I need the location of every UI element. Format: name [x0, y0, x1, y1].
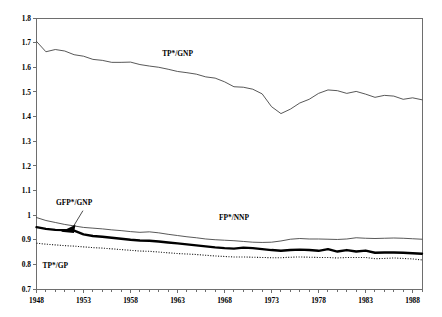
y-axis-tick-label: 0.9: [22, 235, 32, 244]
x-axis-tick-label: 1983: [358, 296, 373, 305]
series-line-tp-gnp: [37, 41, 423, 113]
series-label-tp-gnp: TP*/GNP: [162, 49, 193, 58]
y-axis-tick-label: 1: [27, 211, 31, 220]
x-axis-tick-label: 1973: [264, 296, 279, 305]
y-axis-tick-label: 1.6: [22, 63, 32, 72]
y-axis-tick-label: 1.7: [22, 38, 32, 47]
y-axis-tick-label: 1.5: [22, 88, 32, 97]
annotation-leader-line: [73, 211, 82, 227]
y-axis-tick-label: 1.2: [22, 162, 32, 171]
x-axis-tick-label: 1978: [311, 296, 326, 305]
chart-container: 0.70.80.911.11.21.31.41.51.61.71.8194819…: [0, 0, 442, 317]
x-axis-tick-label: 1953: [76, 296, 91, 305]
y-axis-tick-label: 1.4: [22, 112, 32, 121]
series-label-tp-gp: TP*/GP: [43, 261, 69, 270]
y-axis-tick-label: 0.7: [22, 285, 32, 294]
series-label-fp-nnp: FP*/NNP: [219, 213, 249, 222]
x-axis-tick-label: 1948: [29, 296, 44, 305]
x-axis-tick-label: 1963: [170, 296, 185, 305]
x-axis-tick-label: 1988: [405, 296, 420, 305]
chart-series: [37, 41, 423, 260]
series-labels: TP*/GNPFP*/NNPGFP*/GNPTP*/GP: [43, 49, 250, 269]
y-axis-tick-label: 0.8: [22, 260, 32, 269]
chart-axes: 0.70.80.911.11.21.31.41.51.61.71.8194819…: [22, 14, 422, 305]
y-axis-tick-label: 1.3: [22, 137, 32, 146]
y-axis-tick-label: 1.8: [22, 14, 32, 23]
y-axis-tick-label: 1.1: [22, 186, 32, 195]
series-label-gfp-gnp: GFP*/GNP: [56, 198, 93, 207]
x-axis-tick-label: 1958: [123, 296, 138, 305]
line-chart: 0.70.80.911.11.21.31.41.51.61.71.8194819…: [0, 0, 442, 317]
x-axis-tick-label: 1968: [217, 296, 232, 305]
